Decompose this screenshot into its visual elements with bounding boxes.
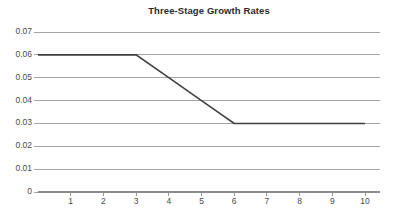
y-axis-tick-label: 0.07	[0, 27, 32, 36]
y-axis-tick-label: 0.06	[0, 50, 32, 59]
x-axis-tick-label: 7	[256, 197, 278, 206]
chart-plot-area	[0, 0, 397, 219]
x-axis-tick-label: 3	[125, 197, 147, 206]
y-axis-tick-label: 0.01	[0, 164, 32, 173]
x-axis-tick-label: 6	[223, 197, 245, 206]
data-line-growth-rate	[38, 55, 365, 124]
x-axis-tick-label: 10	[354, 197, 376, 206]
y-axis-tick-label: 0.03	[0, 118, 32, 127]
y-axis-tick-label: 0	[0, 187, 32, 196]
x-axis-tick-label: 1	[60, 197, 82, 206]
chart-container: Three-Stage Growth Rates 00.010.020.030.…	[0, 0, 397, 219]
x-axis-tick-label: 5	[191, 197, 213, 206]
x-axis-tick-label: 4	[158, 197, 180, 206]
data-series-group	[38, 55, 365, 124]
y-axis-tick-label: 0.02	[0, 141, 32, 150]
x-axis-tick-label: 2	[92, 197, 114, 206]
gridlines-group	[38, 32, 380, 192]
x-axis-ticks-group	[34, 32, 365, 196]
y-axis-tick-label: 0.05	[0, 73, 32, 82]
y-axis-tick-label: 0.04	[0, 96, 32, 105]
x-axis-tick-label: 8	[289, 197, 311, 206]
x-axis-tick-label: 9	[321, 197, 343, 206]
